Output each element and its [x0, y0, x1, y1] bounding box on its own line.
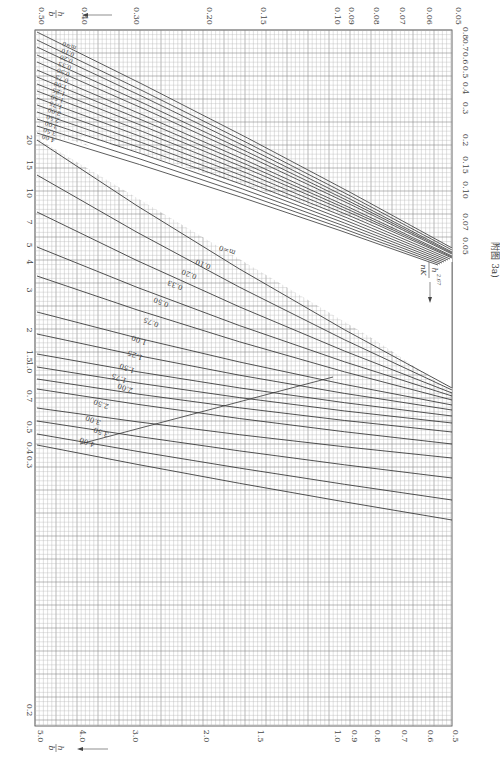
top-tick-label: 0.15 — [259, 7, 268, 25]
lower-series-label: 0.75 — [143, 315, 160, 328]
right-tick-label: 0.10 — [461, 181, 470, 199]
top-tick-label: 0.07 — [398, 7, 407, 25]
right-tick-label: 0.7 — [461, 39, 470, 52]
grid — [35, 30, 452, 726]
top-tick-label: 0.05 — [454, 7, 463, 25]
lower-series-label: 1.25 — [127, 348, 144, 361]
left-tick-label: 1.0 — [25, 361, 34, 374]
axis-title-denominator: b — [47, 11, 56, 16]
left-axis-ticks: 201510754321.51.00.70.50.40.30.2 — [25, 135, 34, 716]
top-tick-label: 0.09 — [347, 7, 356, 25]
left-tick-label: 7 — [25, 219, 34, 224]
upper-series-labels: m=00.100.200.330.500.751.001.251.501.752… — [40, 41, 77, 145]
right-tick-label: 0.6 — [461, 52, 470, 65]
top-tick-label: 0.10 — [333, 7, 342, 25]
axis-title-numerator: h — [56, 11, 65, 16]
left-tick-label: 5 — [25, 242, 34, 247]
left-tick-label: 0.3 — [25, 456, 34, 469]
bottom-tick-label: 0.6 — [426, 730, 435, 743]
left-tick-label: 0.5 — [25, 421, 34, 434]
bottom-tick-label: 5.0 — [36, 730, 45, 743]
formula-numerator: h — [430, 267, 439, 272]
right-tick-label: 0.8 — [461, 27, 470, 40]
bottom-tick-label: 1.0 — [333, 730, 342, 743]
right-tick-label: 0.4 — [461, 82, 470, 95]
axis-title-numerator-bottom: h — [56, 745, 65, 750]
bottom-axis-ticks: 5.04.03.02.01.51.00.90.80.70.60.5 — [36, 730, 460, 743]
top-tick-label: 0.30 — [132, 7, 141, 25]
top-tick-label: 0.08 — [372, 7, 381, 25]
lower-series-label: 3.00 — [85, 413, 102, 426]
top-tick-label: 0.20 — [205, 7, 214, 25]
left-tick-label: 3 — [25, 287, 34, 292]
left-tick-label: 0.4 — [25, 442, 34, 455]
right-tick-label: 0.5 — [461, 66, 470, 79]
formula-denominator: nK — [419, 264, 428, 276]
bottom-tick-label: 3.0 — [131, 730, 140, 743]
bottom-tick-label: 0.9 — [350, 730, 359, 743]
bottom-tick-label: 0.8 — [373, 730, 382, 743]
bottom-tick-label: 0.7 — [400, 730, 409, 743]
top-axis-ticks: 0.500.400.300.200.150.100.090.080.070.06… — [37, 7, 463, 25]
figure-caption: 附图 3a) — [490, 242, 500, 277]
bottom-tick-label: 1.5 — [256, 730, 265, 743]
left-tick-label: 0.7 — [25, 390, 34, 403]
bottom-tick-label: 2.0 — [202, 730, 211, 743]
top-axis-title: h b — [47, 10, 65, 18]
lower-series-label: 3.50 — [93, 425, 110, 438]
top-axis-arrow — [82, 13, 112, 17]
formula-exponent: 2.67 — [436, 273, 442, 286]
right-tick-label: 0.05 — [461, 237, 470, 255]
lower-series-label: 1.00 — [131, 333, 148, 346]
right-tick-label: 0.2 — [461, 134, 470, 147]
left-tick-label: 2 — [25, 327, 34, 332]
right-tick-label: 0.3 — [461, 102, 470, 115]
bottom-axis-title: h b — [47, 744, 65, 752]
right-tick-label: 0.07 — [461, 213, 470, 231]
left-tick-label: 20 — [25, 135, 34, 145]
lower-series-label: 0.50 — [153, 295, 170, 308]
bottom-axis-arrow — [77, 747, 108, 751]
top-tick-label: 0.06 — [425, 7, 434, 25]
bottom-tick-label: 0.5 — [451, 730, 460, 743]
right-tick-label: 0.15 — [461, 156, 470, 174]
right-axis-ticks: 0.80.70.60.50.40.30.20.150.100.070.05 — [461, 27, 470, 255]
bottom-tick-label: 4.0 — [78, 730, 87, 743]
caption-text: 附图 3a) — [490, 242, 500, 277]
top-tick-label: 0.50 — [37, 7, 46, 25]
nomogram-chart: 0.500.400.300.200.150.100.090.080.070.06… — [0, 0, 500, 776]
left-tick-label: 15 — [25, 160, 34, 170]
left-tick-label: 0.2 — [25, 704, 34, 717]
axis-title-denominator-bottom: b — [47, 745, 56, 750]
left-tick-label: 10 — [25, 188, 34, 198]
lower-curve-4.00 — [37, 445, 452, 520]
left-tick-label: 4 — [25, 259, 34, 264]
